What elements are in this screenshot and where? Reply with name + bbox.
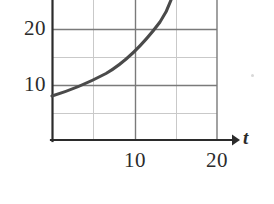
y-tick-label-20: 20 [8,18,46,39]
scan-artifact-speck [251,74,254,77]
x-tick-label-10: 10 [115,150,155,171]
x-tick-label-20: 20 [197,150,237,171]
graph-figure: 20 10 10 20 t [0,0,274,204]
x-axis-name-label: t [243,128,248,147]
y-tick-label-10: 10 [8,74,46,95]
exponential-curve [52,0,171,96]
x-axis-arrowhead-icon [232,135,240,146]
